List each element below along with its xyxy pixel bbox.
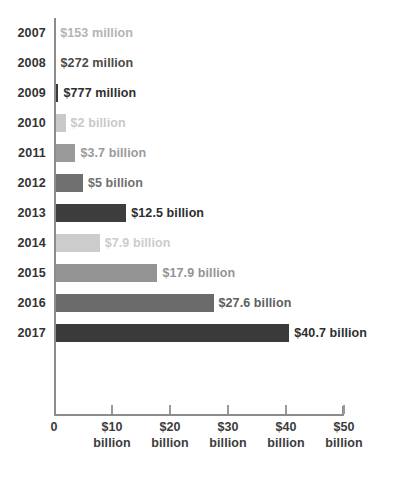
year-label: 2010 (0, 108, 46, 138)
bar-wrapper (54, 168, 83, 198)
bar-wrapper (54, 228, 100, 258)
x-axis-tick (285, 405, 286, 414)
bar-wrapper (54, 198, 126, 228)
bar-row: 2009$777 million (0, 78, 393, 108)
bar-value-label: $777 million (63, 78, 136, 108)
bar-row: 2012$5 billion (0, 168, 393, 198)
bar (54, 114, 66, 132)
bar-row: 2013$12.5 billion (0, 198, 393, 228)
bar-row: 2007$153 million (0, 18, 393, 48)
bar-wrapper (54, 258, 157, 288)
tick-label-unit: billion (309, 435, 379, 451)
bar-wrapper (54, 288, 214, 318)
bar-value-label: $27.6 billion (219, 288, 292, 318)
bar-row: 2017$40.7 billion (0, 318, 393, 348)
x-axis-tick (343, 405, 344, 414)
bar-row: 2010$2 billion (0, 108, 393, 138)
bar (54, 204, 126, 222)
x-axis-tick-label: $50billion (309, 419, 379, 451)
bar-value-label: $153 million (60, 18, 133, 48)
x-axis-line (54, 414, 344, 416)
year-label: 2008 (0, 48, 46, 78)
tick-label-value: $20 (159, 420, 180, 434)
bar-value-label: $40.7 billion (294, 318, 367, 348)
bar-value-label: $12.5 billion (131, 198, 204, 228)
bar-value-label: $7.9 billion (105, 228, 171, 258)
year-label: 2015 (0, 258, 46, 288)
tick-label-value: 0 (50, 420, 57, 434)
year-label: 2007 (0, 18, 46, 48)
y-axis-line (54, 18, 56, 416)
bar (54, 264, 157, 282)
tick-label-value: $40 (275, 420, 296, 434)
bar (54, 174, 83, 192)
bar-row: 2011$3.7 billion (0, 138, 393, 168)
year-label: 2017 (0, 318, 46, 348)
x-axis-tick (111, 405, 112, 414)
tick-label-value: $50 (333, 420, 354, 434)
x-axis-left-endcap (54, 406, 56, 416)
bar-wrapper (54, 108, 66, 138)
year-label: 2016 (0, 288, 46, 318)
year-label: 2011 (0, 138, 46, 168)
bar-value-label: $2 billion (71, 108, 126, 138)
bar-value-label: $17.9 billion (162, 258, 235, 288)
bar (54, 324, 289, 342)
tick-label-value: $10 (101, 420, 122, 434)
bar (54, 234, 100, 252)
bar-wrapper (54, 138, 75, 168)
bar-value-label: $5 billion (88, 168, 143, 198)
year-label: 2009 (0, 78, 46, 108)
year-label: 2013 (0, 198, 46, 228)
bar-row: 2014$7.9 billion (0, 228, 393, 258)
x-axis-tick (169, 405, 170, 414)
bar-value-label: $3.7 billion (80, 138, 146, 168)
x-axis-tick (227, 405, 228, 414)
bar-chart: 2007$153 million2008$272 million2009$777… (0, 0, 393, 481)
tick-label-value: $30 (217, 420, 238, 434)
year-label: 2012 (0, 168, 46, 198)
year-label: 2014 (0, 228, 46, 258)
bar (54, 144, 75, 162)
bar-row: 2016$27.6 billion (0, 288, 393, 318)
bar-row: 2008$272 million (0, 48, 393, 78)
bar-value-label: $272 million (61, 48, 134, 78)
bar-wrapper (54, 318, 289, 348)
bar (54, 294, 214, 312)
bar-row: 2015$17.9 billion (0, 258, 393, 288)
